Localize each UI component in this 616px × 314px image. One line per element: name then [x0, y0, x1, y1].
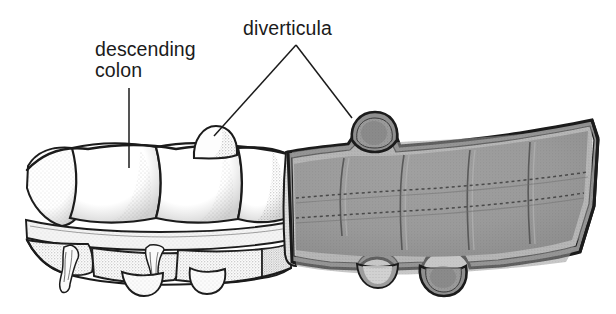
exterior-colon-segment [26, 126, 291, 296]
figure-root: descending colon diverticula [0, 0, 616, 314]
label-descending-colon: descending colon [95, 38, 196, 81]
leader-diverticula-right [296, 45, 352, 118]
diverticulum-superior-right [352, 112, 398, 152]
diverticulum-inferior-cut [357, 264, 398, 288]
colon-diverticulosis-illustration: descending colon diverticula [0, 0, 616, 314]
label-diverticula: diverticula [243, 17, 332, 39]
cutaway-colon-segment [286, 112, 606, 296]
diverticulum-inferior-right [420, 266, 467, 296]
label-descending-colon-line2: colon [95, 59, 142, 81]
label-descending-colon-line1: descending [95, 38, 196, 60]
diverticulum-inferior-mid [190, 268, 226, 294]
diverticulum-superior-left [194, 126, 237, 158]
diverticulum-inferior-left [122, 272, 163, 296]
label-diverticula-line1: diverticula [243, 17, 332, 39]
haustra-upper-row [27, 143, 291, 226]
leader-diverticula-left [214, 45, 296, 136]
